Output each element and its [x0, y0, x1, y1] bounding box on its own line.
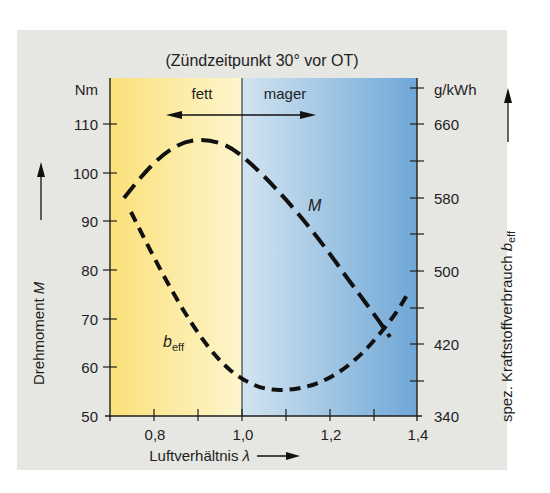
- svg-text:90: 90: [81, 213, 98, 230]
- svg-text:110: 110: [74, 116, 98, 133]
- svg-text:1,4: 1,4: [408, 426, 429, 443]
- right-axis-arrow-icon: [504, 88, 512, 142]
- left-axis-arrow-icon: [37, 162, 45, 220]
- svg-text:660: 660: [434, 116, 459, 133]
- svg-text:100: 100: [73, 165, 98, 182]
- svg-text:50: 50: [81, 408, 98, 425]
- svg-text:1,2: 1,2: [321, 426, 342, 443]
- svg-text:80: 80: [81, 262, 98, 279]
- region-fett: [110, 78, 242, 416]
- right-axis-tick-labels: 660 580 500 420 340: [434, 116, 459, 425]
- svg-text:340: 340: [434, 408, 459, 425]
- svg-text:60: 60: [81, 359, 98, 376]
- label-fett: fett: [192, 85, 214, 102]
- right-axis-unit: g/kWh: [434, 81, 477, 98]
- left-axis-unit: Nm: [75, 81, 98, 98]
- svg-text:580: 580: [434, 190, 459, 207]
- left-axis-tick-labels: 110 100 90 80 70 60 50: [73, 116, 98, 425]
- x-axis-title: Luftverhältnis λ: [149, 447, 250, 464]
- svg-text:420: 420: [434, 336, 459, 353]
- x-axis-tick-labels: 0,8 1,0 1,2 1,4: [145, 426, 429, 443]
- svg-text:0,8: 0,8: [145, 426, 166, 443]
- svg-text:1,0: 1,0: [233, 426, 254, 443]
- chart: (Zündzeitpunkt 30° vor OT) fett mager 11…: [0, 0, 550, 493]
- svg-text:500: 500: [434, 263, 459, 280]
- label-mager: mager: [264, 85, 307, 102]
- curve-label-m: M: [308, 197, 322, 214]
- x-axis-arrow-icon: [257, 452, 300, 460]
- region-mager: [242, 78, 417, 416]
- chart-title: (Zündzeitpunkt 30° vor OT): [165, 52, 358, 69]
- svg-text:70: 70: [81, 311, 98, 328]
- right-axis-title: spez. Kraftstoffverbrauch beff: [498, 230, 517, 422]
- left-axis-title: Drehmoment M: [30, 281, 47, 385]
